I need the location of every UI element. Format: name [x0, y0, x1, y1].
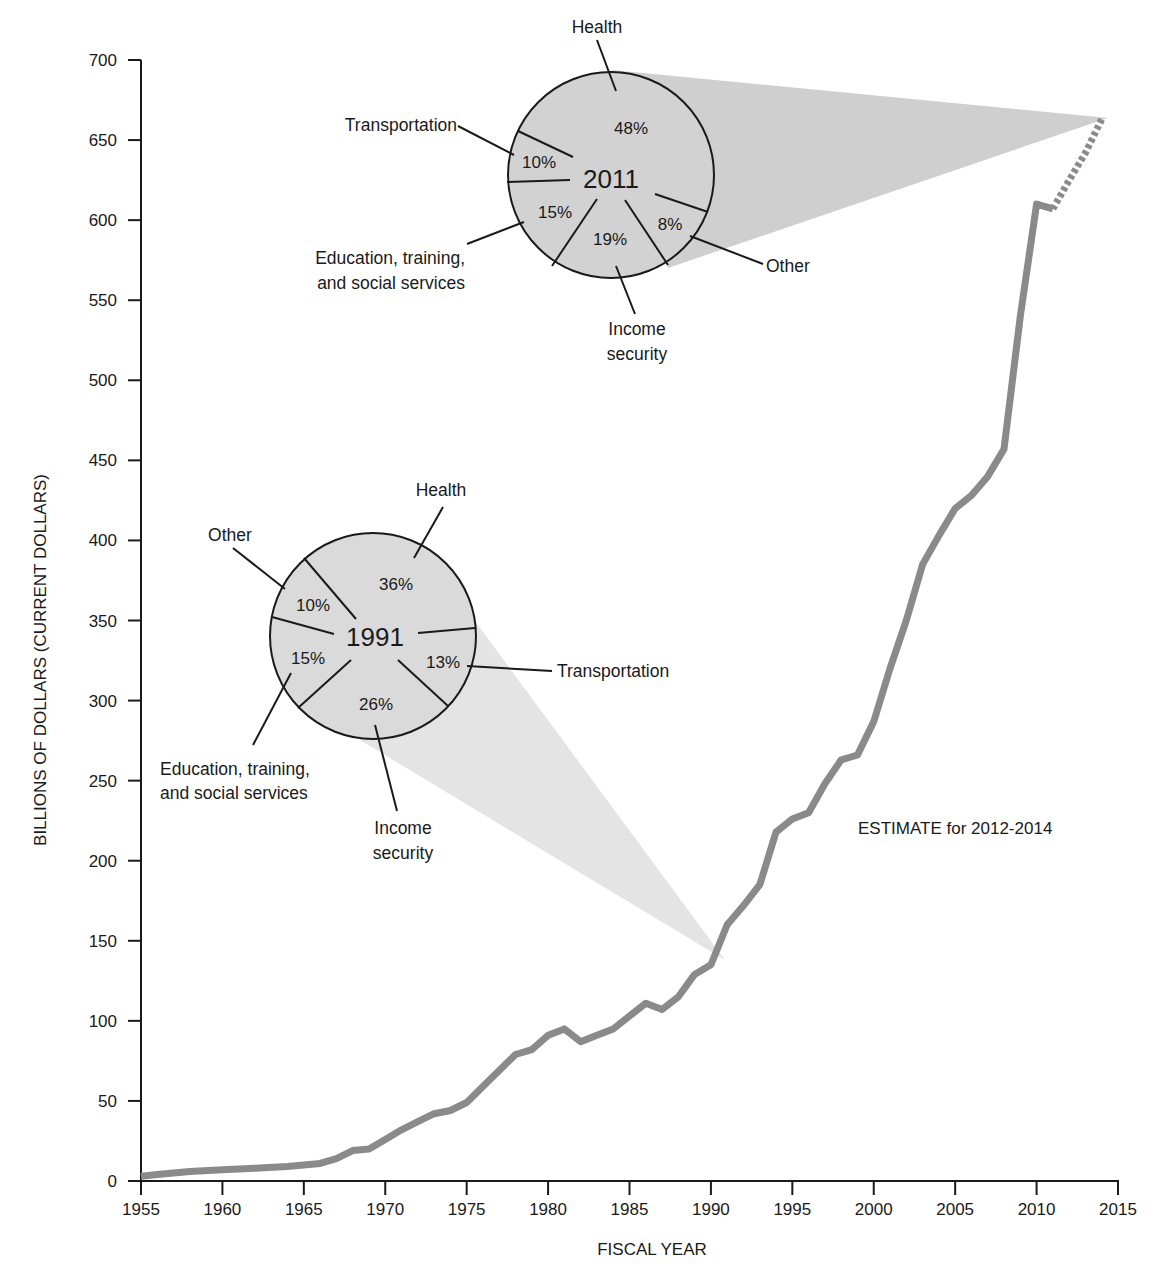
y-tick-label: 450 [89, 451, 117, 470]
pie-2011-income-label-1: Income [608, 319, 665, 339]
y-tick-label: 200 [89, 852, 117, 871]
pie-1991-income-label-1: Income [374, 818, 431, 838]
x-tick-label: 1985 [611, 1200, 649, 1219]
x-tick-label: 1990 [692, 1200, 730, 1219]
y-tick-label: 500 [89, 371, 117, 390]
y-tick-label: 550 [89, 291, 117, 310]
x-tick-label: 1995 [773, 1200, 811, 1219]
actual-spending-line [141, 204, 1053, 1176]
pie-1991-transport-pct: 13% [426, 653, 460, 672]
pie-2011-other-pct: 8% [658, 215, 683, 234]
pie-2011-income-label-2: security [607, 344, 668, 364]
pie-1991-edu-pct: 15% [291, 649, 325, 668]
y-tick-label: 700 [89, 51, 117, 70]
chart: 0501001502002503003504004505005506006507… [0, 0, 1169, 1277]
pie-2011-income-pct: 19% [593, 230, 627, 249]
pie-1991-transport-label: Transportation [557, 661, 669, 681]
y-tick-label: 400 [89, 531, 117, 550]
y-tick-label: 650 [89, 131, 117, 150]
pie-2011-edu-pct: 15% [538, 203, 572, 222]
x-tick-label: 2000 [855, 1200, 893, 1219]
x-tick-label: 2005 [936, 1200, 974, 1219]
pie-2011-transport-label: Transportation [345, 115, 457, 135]
pie-1991-health-pct: 36% [379, 575, 413, 594]
pie-1991-other-label: Other [208, 525, 252, 545]
pie-1991-health-label: Health [416, 480, 467, 500]
y-ticks: 0501001502002503003504004505005506006507… [89, 51, 141, 1191]
pie-1991-edu-label-2: and social services [160, 783, 308, 803]
y-tick-label: 350 [89, 612, 117, 631]
y-tick-label: 250 [89, 772, 117, 791]
y-tick-label: 600 [89, 211, 117, 230]
x-tick-label: 1960 [204, 1200, 242, 1219]
x-tick-label: 1955 [122, 1200, 160, 1219]
y-tick-label: 300 [89, 692, 117, 711]
pie-1991-income-label-2: security [373, 843, 434, 863]
x-ticks: 1955196019651970197519801985199019952000… [122, 1181, 1137, 1219]
pie-2011-health-pct: 48% [614, 119, 648, 138]
x-tick-label: 1970 [366, 1200, 404, 1219]
pie-1991-year: 1991 [346, 622, 404, 652]
pie-2011-transport-pct: 10% [522, 153, 556, 172]
pie-2011-other-label: Other [766, 256, 810, 276]
pie-1991-income-pct: 26% [359, 695, 393, 714]
y-tick-label: 150 [89, 932, 117, 951]
y-tick-label: 100 [89, 1012, 117, 1031]
x-axis-title: FISCAL YEAR [597, 1240, 707, 1259]
y-tick-label: 50 [98, 1092, 117, 1111]
estimate-annotation: ESTIMATE for 2012-2014 [858, 819, 1052, 838]
y-tick-label: 0 [108, 1172, 117, 1191]
pie-2011-edu-label-2: and social services [317, 273, 465, 293]
y-axis-title: BILLIONS OF DOLLARS (CURRENT DOLLARS) [31, 474, 50, 846]
pie-2011-year: 2011 [583, 164, 639, 194]
pie-2011-health-label: Health [572, 17, 623, 37]
x-tick-label: 2010 [1018, 1200, 1056, 1219]
pie-2011-edu-label-1: Education, training, [315, 248, 465, 268]
x-tick-label: 1975 [448, 1200, 486, 1219]
pie-1991-other-pct: 10% [296, 596, 330, 615]
x-tick-label: 1965 [285, 1200, 323, 1219]
x-tick-label: 1980 [529, 1200, 567, 1219]
pie-1991-edu-label-1: Education, training, [160, 759, 310, 779]
x-tick-label: 2015 [1099, 1200, 1137, 1219]
